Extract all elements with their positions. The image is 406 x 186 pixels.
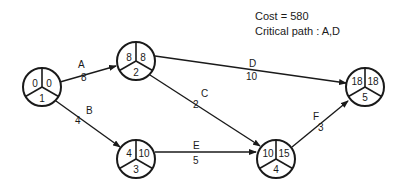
activity-duration-A: 8 (81, 72, 87, 83)
node-latest-time: 18 (367, 76, 379, 87)
node-earliest-time: 0 (32, 78, 38, 89)
node-latest-time: 8 (140, 52, 146, 63)
activity-duration-B: 4 (75, 115, 81, 126)
node-1: 0 0 1 (23, 68, 61, 106)
activity-C: C 2 (150, 75, 260, 146)
arrow-C (150, 75, 260, 146)
node-latest-time: 0 (46, 78, 52, 89)
node-earliest-time: 4 (126, 148, 132, 159)
arrow-A (60, 66, 116, 82)
activity-duration-F: 3 (318, 122, 324, 133)
node-3: 4 10 3 (117, 140, 155, 178)
activity-name-E: E (193, 140, 200, 151)
activity-name-D: D (249, 58, 256, 69)
activity-B: B 4 (56, 101, 120, 147)
activity-D: D 10 (155, 56, 346, 83)
node-number: 5 (362, 92, 368, 103)
node-number: 4 (273, 164, 279, 175)
node-latest-time: 10 (138, 148, 150, 159)
activity-E: E 5 (155, 140, 256, 166)
activity-A: A 8 (60, 59, 116, 83)
node-latest-time: 15 (278, 148, 290, 159)
node-earliest-time: 8 (126, 52, 132, 63)
node-4: 10 15 4 (257, 140, 295, 178)
node-number: 1 (39, 93, 45, 104)
node-2: 8 8 2 (117, 42, 155, 80)
node-number: 3 (133, 164, 139, 175)
node-earliest-time: 10 (262, 148, 274, 159)
activity-F: F 3 (292, 101, 348, 147)
activity-name-C: C (201, 88, 208, 99)
activity-name-A: A (78, 59, 85, 70)
activity-name-B: B (86, 105, 93, 116)
activity-network-diagram: A 8 B 4 C 2 D 10 E 5 F 3 0 0 1 (0, 0, 406, 186)
activity-duration-E: 5 (193, 155, 199, 166)
node-number: 2 (133, 67, 139, 78)
activity-duration-C: 2 (193, 99, 199, 110)
activity-duration-D: 10 (246, 71, 258, 82)
node-earliest-time: 18 (351, 76, 363, 87)
node-5: 18 18 5 (346, 68, 384, 106)
activity-name-F: F (313, 111, 319, 122)
